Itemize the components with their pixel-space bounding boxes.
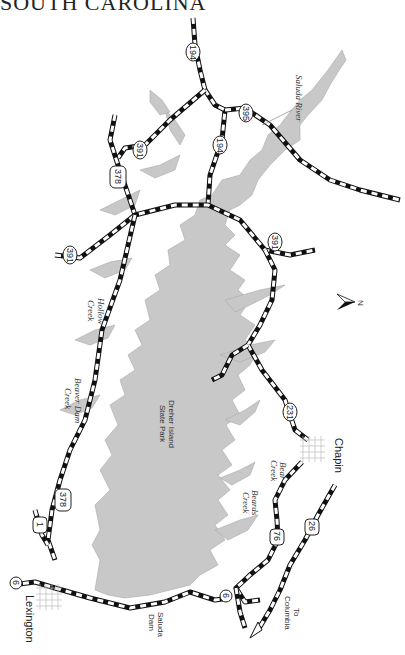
route-shield-378: 378 — [113, 169, 123, 184]
hollow-creek-label-2: Creek — [86, 300, 96, 322]
to-columbia-label: To — [292, 608, 301, 617]
route-shield-378: 378 — [58, 492, 68, 507]
saluda-river-label: Saluda River — [294, 75, 304, 122]
route-shield-26: 26 — [307, 521, 317, 531]
route-shield-194: 194 — [188, 45, 198, 60]
to-columbia-label-2: Columbia — [283, 596, 292, 630]
route-shield-391: 391 — [270, 235, 280, 250]
route-shield-391: 391 — [135, 143, 145, 158]
beards-creek-label-2: Creek — [241, 492, 251, 514]
route-shield-76: 76 — [272, 531, 282, 541]
state-park-label: State Park — [158, 405, 167, 443]
route-shield-395: 395 — [241, 106, 251, 121]
north-arrow-icon: N — [337, 294, 365, 310]
beaver-dam-creek-label-2: Creek — [63, 388, 73, 410]
saluda-dam-label: Saluda — [156, 612, 165, 637]
saluda-dam-label-2: Dam — [147, 614, 156, 631]
hollow-creek-label: Hollow — [96, 297, 106, 325]
route-shield-1: 1 — [35, 522, 45, 527]
route-shield-391: 391 — [65, 248, 75, 263]
town-chapin: Chapin — [333, 438, 345, 473]
town-lexington: Lexington — [24, 595, 36, 643]
route-shield-231: 231 — [285, 405, 295, 420]
route-shield-6: 6 — [11, 580, 21, 585]
bear-creek-label-2: Creek — [269, 460, 279, 482]
dreher-island-label: Dreher Island — [167, 400, 176, 448]
route-shield-6: 6 — [221, 593, 231, 598]
chapin-grid — [300, 436, 325, 462]
lexington-grid — [36, 584, 62, 610]
lake-murray-map: N 194 395 194 391 378 391 391 231 378 1 … — [0, 0, 405, 655]
north-label: N — [356, 300, 365, 306]
route-shield-194: 194 — [215, 138, 225, 153]
beaver-dam-creek-label: Beaver Dam — [73, 378, 83, 424]
